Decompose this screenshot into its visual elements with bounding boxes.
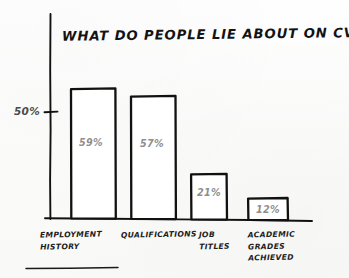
y-axis-line: [50, 14, 51, 219]
x-axis-category-label-employment-history: EMPLOYMENT HISTORY: [40, 228, 102, 252]
bar-chart-figure: WHAT DO PEOPLE LIE ABOUT ON CVs? 50% 59%…: [0, 0, 349, 278]
x-axis-category-label-qualifications: QUALIFICATIONS: [121, 228, 197, 241]
bar-qualifications: [131, 96, 176, 219]
bar-value-label-academic-grades: 12%: [256, 204, 280, 215]
y-axis-tick-50: [45, 112, 58, 113]
bottom-rule-line: [26, 268, 118, 269]
bar-value-label-employment-history: 59%: [79, 137, 103, 148]
y-axis-tick-label-50: 50%: [14, 105, 40, 117]
x-axis-category-label-job-titles: JOB TITLES: [199, 229, 230, 253]
bar-value-label-job-titles: 21%: [197, 187, 221, 198]
bar-employment-history: [71, 88, 116, 218]
bar-value-label-qualifications: 57%: [140, 138, 164, 149]
x-axis-category-label-academic-grades: ACADEMIC GRADES ACHIEVED: [248, 229, 296, 264]
